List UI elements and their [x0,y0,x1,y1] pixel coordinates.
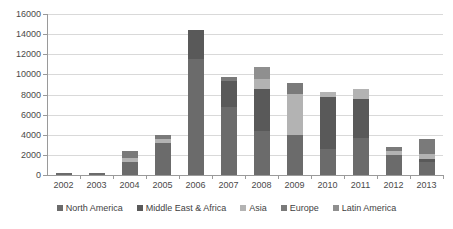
gridline [47,95,443,96]
legend-swatch-icon [281,205,287,211]
bar-segment[interactable] [155,143,171,175]
y-axis-line [47,14,48,176]
x-tick [311,175,312,179]
legend-item-label: North America [66,203,123,213]
legend-item-label: Latin America [342,203,397,213]
x-tick [113,175,114,179]
y-axis-tick-label: 2000 [0,151,41,160]
bar-group[interactable] [287,83,303,175]
y-tick [43,115,47,116]
chart-legend: North AmericaMiddle East & AfricaAsiaEur… [0,203,453,213]
bar-segment[interactable] [353,99,369,138]
bar-segment[interactable] [386,151,402,156]
bar-segment[interactable] [386,147,402,151]
x-tick [179,175,180,179]
x-tick [212,175,213,179]
bar-group[interactable] [254,67,270,175]
x-tick [410,175,411,179]
gridline [47,74,443,75]
bar-group[interactable] [188,30,204,175]
bar-segment[interactable] [122,151,138,158]
y-axis-tick-label: 16000 [0,10,41,19]
legend-item[interactable]: Latin America [333,203,397,213]
legend-swatch-icon [137,205,143,211]
x-tick [80,175,81,179]
legend-item-label: Asia [249,203,267,213]
x-tick [377,175,378,179]
legend-item[interactable]: Middle East & Africa [137,203,227,213]
y-axis-tick-label: 0 [0,171,41,180]
plot-area [47,14,443,175]
bar-segment[interactable] [287,135,303,175]
legend-swatch-icon [333,205,339,211]
gridline [47,14,443,15]
bar-segment[interactable] [419,154,435,159]
legend-item-label: Europe [290,203,319,213]
legend-swatch-icon [240,205,246,211]
y-tick [43,155,47,156]
legend-item-label: Middle East & Africa [146,203,227,213]
bar-segment[interactable] [419,159,435,162]
gridline [47,34,443,35]
bar-segment[interactable] [221,77,237,82]
bar-segment[interactable] [353,89,369,99]
legend-item[interactable]: North America [57,203,123,213]
y-tick [43,14,47,15]
x-tick [146,175,147,179]
gridline [47,135,443,136]
bar-segment[interactable] [122,158,138,162]
bar-segment[interactable] [254,79,270,89]
bar-segment[interactable] [320,149,336,175]
bar-group[interactable] [353,89,369,175]
y-tick [43,135,47,136]
bar-segment[interactable] [188,59,204,175]
bar-group[interactable] [221,77,237,175]
bar-segment[interactable] [155,139,171,143]
bar-segment[interactable] [287,83,303,94]
bar-segment[interactable] [254,67,270,79]
bar-segment[interactable] [155,135,171,139]
y-tick [43,34,47,35]
x-tick [344,175,345,179]
bar-group[interactable] [386,147,402,175]
bar-group[interactable] [419,139,435,175]
y-tick [43,175,47,176]
y-axis-tick-label: 8000 [0,91,41,100]
legend-swatch-icon [57,205,63,211]
y-axis-tick-label: 12000 [0,50,41,59]
bar-segment[interactable] [419,139,435,154]
y-tick [43,54,47,55]
x-tick [278,175,279,179]
bar-segment[interactable] [221,81,237,107]
y-axis-tick-label: 6000 [0,111,41,120]
bar-segment[interactable] [386,155,402,175]
x-tick [443,175,444,179]
bar-group[interactable] [122,151,138,175]
bar-group[interactable] [320,92,336,175]
x-tick [245,175,246,179]
y-axis-tick-label: 10000 [0,70,41,79]
bar-segment[interactable] [320,97,336,149]
bar-segment[interactable] [419,162,435,175]
x-axis-tick-label: 2013 [407,180,447,190]
bar-segment[interactable] [254,89,270,130]
gridline [47,54,443,55]
y-tick [43,74,47,75]
stacked-bar-chart: 0200040006000800010000120001400016000 20… [0,0,453,229]
legend-item[interactable]: Europe [281,203,319,213]
y-axis-tick-label: 4000 [0,131,41,140]
bar-segment[interactable] [188,30,204,60]
bar-segment[interactable] [320,92,336,97]
bar-group[interactable] [155,135,171,175]
bar-segment[interactable] [122,162,138,175]
bar-segment[interactable] [353,138,369,175]
bar-segment[interactable] [221,107,237,175]
gridline [47,155,443,156]
bar-segment[interactable] [254,131,270,175]
y-tick [43,95,47,96]
gridline [47,115,443,116]
y-axis-tick-label: 14000 [0,30,41,39]
legend-item[interactable]: Asia [240,203,267,213]
bar-segment[interactable] [287,94,303,135]
